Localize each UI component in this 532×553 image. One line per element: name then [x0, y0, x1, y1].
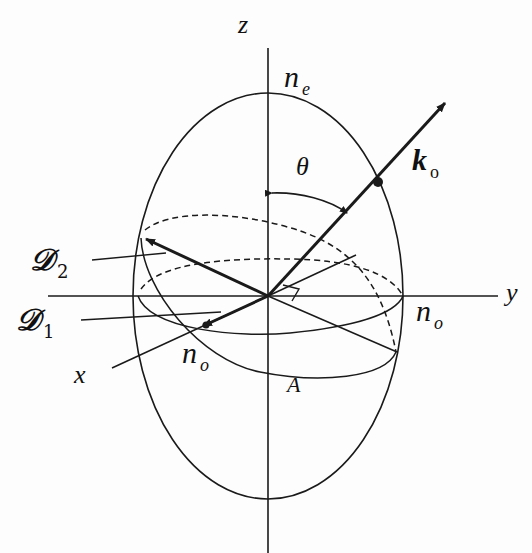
- equator-front: [138, 296, 403, 334]
- d1-label: 𝒟1: [16, 305, 54, 335]
- k-vector-dot: [373, 177, 383, 187]
- index-ellipsoid-diagram: z y x ne no no θ ko 𝒟2 𝒟1 A: [0, 0, 532, 553]
- d2-leader-line: [92, 253, 166, 260]
- d2-vector-arrow: [146, 239, 268, 296]
- d1-leader-line: [81, 312, 221, 320]
- theta-label: θ: [296, 154, 309, 180]
- k-vector-label: ko: [412, 145, 439, 175]
- x-axis-label: x: [74, 362, 86, 388]
- z-axis-label: z: [238, 12, 248, 38]
- point-a-label: A: [287, 374, 300, 396]
- no-left-label: no: [182, 338, 209, 368]
- ne-label: ne: [284, 62, 310, 92]
- y-axis-label: y: [506, 280, 518, 306]
- tilted-section-back: [145, 215, 396, 352]
- diagram-drawing: [0, 0, 532, 553]
- section-axis-line: [268, 296, 397, 352]
- theta-arc: [272, 193, 347, 213]
- section-axis-line-upper: [268, 255, 356, 296]
- no-right-label: no: [416, 296, 443, 326]
- d2-label: 𝒟2: [30, 245, 68, 275]
- d1-vector-arrow: [203, 296, 268, 326]
- d1-vector-dot: [203, 322, 210, 329]
